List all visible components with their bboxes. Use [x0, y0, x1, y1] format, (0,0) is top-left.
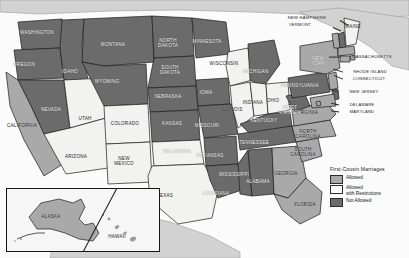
state-connecticut — [340, 56, 350, 62]
legend-title: First-Cousin Marriages — [330, 166, 406, 172]
aleutian-island — [20, 238, 22, 240]
state-oklahoma — [152, 140, 204, 166]
state-alabama — [248, 148, 274, 196]
state-arkansas — [204, 136, 238, 166]
state-wisconsin — [226, 48, 252, 86]
state-nebraska — [148, 86, 198, 112]
state-south-dakota — [148, 56, 196, 88]
state-new-jersey — [328, 72, 338, 90]
state-washington — [18, 19, 66, 50]
inset-map — [7, 189, 159, 251]
legend-item-allowed[interactable]: Allowed — [330, 175, 406, 184]
map-legend: First-Cousin Marriages AllowedAllowed wi… — [330, 166, 406, 208]
alaska-hawaii-inset: ALASKA HAWAII — [6, 188, 160, 252]
state-minnesota — [192, 18, 230, 58]
legend-swatch-notallowed — [330, 198, 343, 207]
state-iowa — [196, 78, 230, 106]
state-montana — [82, 16, 154, 66]
state-massachusetts — [338, 46, 355, 56]
state-new-mexico — [106, 142, 152, 184]
legend-item-notallowed[interactable]: Not Allowed — [330, 198, 406, 207]
legend-swatch-restricted — [330, 185, 343, 194]
legend-label-restricted: Allowed with Restrictions — [346, 185, 381, 197]
state-oregon — [14, 48, 64, 80]
legend-label-allowed: Allowed — [346, 175, 363, 181]
aleutian-island — [14, 240, 16, 242]
state-kansas — [150, 110, 200, 142]
map-container: WASHINGTONOREGONIDAHOMONTANANORTH DAKOTA… — [0, 0, 409, 258]
legend-swatch-allowed — [330, 175, 343, 184]
state-ohio — [266, 82, 290, 114]
state-missouri — [198, 104, 238, 138]
state-north-dakota — [152, 16, 194, 58]
legend-label-notallowed: Not Allowed — [346, 198, 371, 204]
legend-item-restricted[interactable]: Allowed with Restrictions — [330, 185, 406, 197]
legend-rows: AllowedAllowed with RestrictionsNot Allo… — [330, 175, 406, 207]
inset-background — [7, 189, 159, 251]
state-colorado — [104, 104, 150, 144]
state-dc — [316, 101, 321, 106]
state-rhode-island — [350, 55, 355, 60]
